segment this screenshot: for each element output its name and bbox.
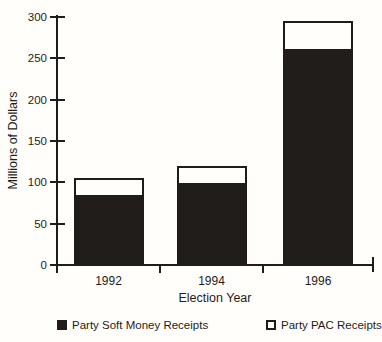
x-tick	[262, 264, 264, 273]
y-tick	[50, 223, 65, 225]
bar-soft-money-segment	[285, 49, 351, 264]
x-axis-title: Election Year	[145, 291, 285, 306]
x-tick	[159, 264, 161, 273]
x-tick	[372, 257, 374, 272]
filled-square-icon	[57, 320, 67, 330]
y-tick-label: 100	[16, 175, 47, 189]
y-tick-label: 300	[16, 10, 47, 24]
legend-item-soft-money: Party Soft Money Receipts	[57, 318, 208, 332]
y-tick	[50, 57, 65, 59]
y-tick-label: 250	[16, 51, 47, 65]
stacked-bar-chart-figure: 050100150200250300199219941996 Millions …	[0, 0, 382, 342]
bar-1994	[177, 166, 247, 266]
bar-soft-money-segment	[179, 183, 245, 264]
y-tick-label: 200	[16, 93, 47, 107]
x-tick	[56, 264, 58, 273]
legend-label-pac: Party PAC Receipts	[281, 318, 382, 332]
x-category-label: 1994	[177, 274, 247, 288]
hollow-square-icon	[266, 320, 276, 330]
y-tick	[50, 16, 65, 18]
legend-item-pac: Party PAC Receipts	[266, 318, 382, 332]
x-category-label: 1996	[283, 274, 353, 288]
bar-1992	[74, 178, 144, 266]
y-tick-label: 0	[16, 258, 47, 272]
legend-label-soft-money: Party Soft Money Receipts	[72, 318, 208, 332]
y-tick	[50, 99, 65, 101]
legend: Party Soft Money Receipts Party PAC Rece…	[0, 318, 382, 334]
y-axis-title: Millions of Dollars	[6, 71, 21, 211]
x-category-label: 1992	[74, 274, 144, 288]
bar-1996	[283, 21, 353, 266]
y-tick-label: 150	[16, 134, 47, 148]
y-tick	[50, 181, 65, 183]
y-tick-label: 50	[16, 217, 47, 231]
bar-soft-money-segment	[76, 195, 142, 264]
y-tick	[50, 140, 65, 142]
